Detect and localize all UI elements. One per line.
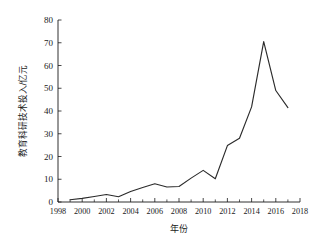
y-axis-tick-label: 70 <box>44 38 54 48</box>
y-axis-tick-label: 40 <box>44 106 54 116</box>
x-axis-tick-label: 2008 <box>171 207 187 216</box>
y-axis-tick-label: 50 <box>44 83 54 93</box>
line-chart: 0102030405060708019982000200220042006200… <box>0 0 314 246</box>
x-axis-tick-label: 2010 <box>195 207 211 216</box>
x-axis-tick-label: 2002 <box>98 207 114 216</box>
x-axis-title: 年份 <box>170 223 188 234</box>
x-axis-tick-label: 2006 <box>147 207 163 216</box>
y-axis-tick-label: 30 <box>44 129 54 139</box>
y-axis-tick-label: 0 <box>49 197 54 207</box>
chart-container: 0102030405060708019982000200220042006200… <box>0 0 314 246</box>
x-axis-tick-label: 2004 <box>122 207 138 216</box>
y-axis-tick-label: 60 <box>44 61 54 71</box>
y-axis-title: 教育科研技术投入/亿元 <box>17 65 28 158</box>
x-axis-tick-label: 2014 <box>243 207 259 216</box>
x-axis-tick-label: 1998 <box>50 207 66 216</box>
x-axis-tick-label: 2016 <box>268 207 284 216</box>
x-axis-tick-label: 2000 <box>74 207 90 216</box>
y-axis-tick-label: 20 <box>44 152 54 162</box>
y-axis-tick-label: 80 <box>44 15 54 25</box>
data-series-line <box>70 42 288 200</box>
y-axis-tick-label: 10 <box>44 174 54 184</box>
x-axis-tick-label: 2018 <box>292 207 308 216</box>
x-axis-tick-label: 2012 <box>219 207 235 216</box>
